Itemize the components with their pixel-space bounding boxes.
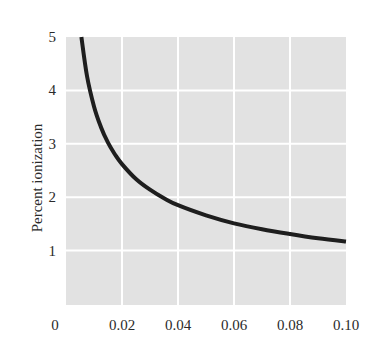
y-tick-label: 3 [49,136,57,152]
x-tick-label: 0.06 [221,317,248,333]
y-axis-ticks: 12345 [49,29,57,259]
y-tick-label: 1 [49,243,57,259]
plot-area [66,37,346,305]
x-tick-label: 0.04 [165,317,192,333]
x-tick-label: 0.08 [277,317,303,333]
x-tick-label: 0 [51,317,59,333]
y-axis-label: Percent ionization [29,123,45,232]
y-tick-label: 2 [49,189,57,205]
x-tick-label: 0.10 [333,317,359,333]
percent-ionization-chart: 12345 00.020.040.060.080.10 Percent ioni… [0,0,385,348]
y-tick-label: 5 [49,29,57,45]
x-axis-ticks: 00.020.040.060.080.10 [51,317,359,333]
x-tick-label: 0.02 [109,317,135,333]
y-tick-label: 4 [49,82,57,98]
